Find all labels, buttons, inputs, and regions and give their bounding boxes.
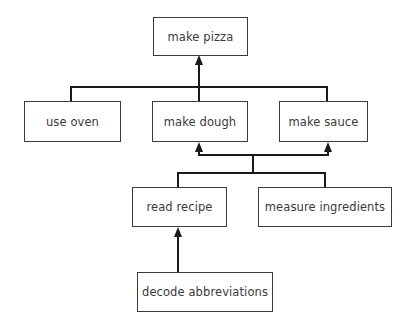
node-make-pizza: make pizza bbox=[153, 17, 248, 56]
node-make-dough: make dough bbox=[152, 101, 248, 142]
node-use-oven: use oven bbox=[24, 101, 121, 142]
node-read-recipe: read recipe bbox=[132, 187, 227, 227]
arrow-to-read-recipe bbox=[174, 227, 182, 272]
node-measure-ingredients: measure ingredients bbox=[258, 187, 392, 227]
middle-lower-bracket bbox=[178, 172, 325, 187]
diagram-canvas: make pizza use oven make dough make sauc… bbox=[0, 0, 411, 329]
node-decode-abbreviations: decode abbreviations bbox=[137, 272, 273, 312]
node-make-sauce: make sauce bbox=[279, 101, 368, 142]
middle-upper-bracket bbox=[195, 142, 332, 173]
arrow-to-make-pizza bbox=[195, 55, 203, 88]
top-bracket bbox=[71, 86, 327, 101]
